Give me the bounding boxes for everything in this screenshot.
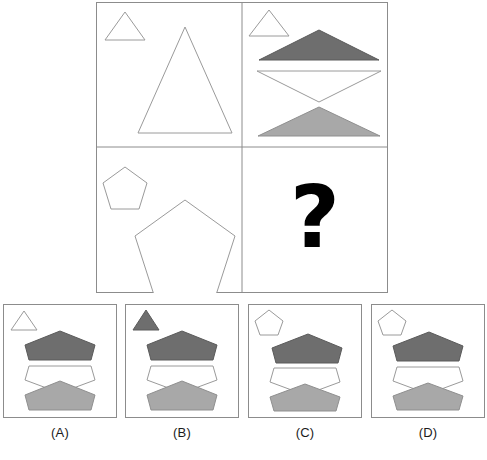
option-c[interactable] xyxy=(248,304,362,418)
option-d[interactable] xyxy=(371,304,485,418)
option-a-svg xyxy=(3,304,117,418)
option-label-d: (D) xyxy=(371,425,485,440)
option-d-svg xyxy=(371,304,485,418)
option-label-b: (B) xyxy=(125,425,239,440)
option-a[interactable] xyxy=(3,304,117,418)
matrix-grid: ? xyxy=(96,2,388,293)
option-b[interactable] xyxy=(125,304,239,418)
option-b-svg xyxy=(125,304,239,418)
matrix-svg: ? xyxy=(96,2,388,293)
option-label-c: (C) xyxy=(248,425,362,440)
option-label-a: (A) xyxy=(3,425,117,440)
puzzle-stage: ? (A) (B) (C) xyxy=(0,0,487,460)
option-c-svg xyxy=(248,304,362,418)
matrix-cell-4: ? xyxy=(290,167,340,267)
question-mark: ? xyxy=(290,167,340,267)
